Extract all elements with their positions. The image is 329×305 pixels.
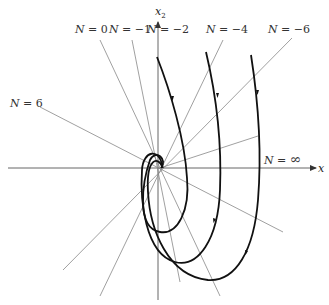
label-n0: N = 0 <box>75 24 108 35</box>
label-n-4: N = −4 <box>206 24 248 35</box>
isocline-n6 <box>40 107 283 232</box>
label-ninf: N = ∞ <box>264 152 302 166</box>
x2-axis-label: x2 <box>155 6 166 20</box>
label-n-1: N = −1 <box>109 24 151 35</box>
trajectory-middle <box>142 52 221 263</box>
direction-arrows <box>171 90 259 255</box>
x-axis-label: x <box>318 163 324 174</box>
arrow-icon <box>216 93 219 98</box>
label-n-6: N = −6 <box>268 24 310 35</box>
phase-plane-figure: x x2 N = 0 N = −1 N = −2 N = −4 N = −6 N… <box>0 0 329 305</box>
label-n-2: N = −2 <box>147 24 189 35</box>
isocline-n-6 <box>63 38 292 270</box>
label-n6: N = 6 <box>10 98 43 109</box>
